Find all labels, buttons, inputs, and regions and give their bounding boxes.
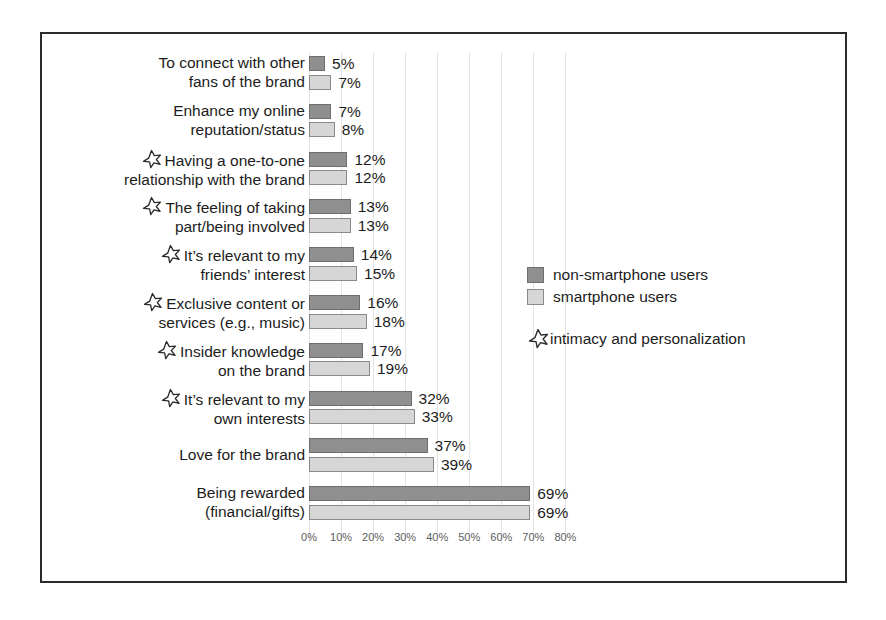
category-label: The feeling of takingpart/being involved: [45, 196, 305, 236]
bar-value-label: 15%: [364, 264, 395, 283]
x-axis: 0%10%20%30%40%50%60%70%80%: [42, 531, 845, 551]
bar-row: 13%: [309, 218, 351, 233]
star-icon: [141, 196, 162, 216]
legend-label: non-smartphone users: [553, 266, 708, 284]
bar-value-label: 17%: [370, 341, 401, 360]
bar-row: 8%: [309, 122, 335, 137]
chart-plot-area: To connect with otherfans of the brand5%…: [42, 34, 845, 581]
bar-row: 12%: [309, 152, 347, 167]
bar-value-label: 33%: [422, 407, 453, 426]
x-axis-tick-label: 60%: [490, 531, 512, 543]
legend-swatch: [527, 267, 544, 283]
star-icon: [156, 340, 177, 360]
star-icon: [141, 149, 162, 169]
bar-value-label: 12%: [354, 150, 385, 169]
bar-row: 15%: [309, 266, 357, 281]
bar-value-label: 19%: [377, 359, 408, 378]
category-label: To connect with otherfans of the brand: [45, 53, 305, 91]
bar-smartphone: [309, 314, 367, 329]
bar-value-label: 12%: [354, 168, 385, 187]
bar-non-smartphone: [309, 199, 351, 214]
bar-value-label: 5%: [332, 54, 354, 73]
bar-value-label: 69%: [537, 484, 568, 503]
bar-row: 18%: [309, 314, 367, 329]
legend-item[interactable]: non-smartphone users: [527, 266, 827, 284]
x-axis-tick-label: 20%: [362, 531, 384, 543]
bar-row: 69%: [309, 486, 530, 501]
chart-legend: non-smartphone userssmartphone users int…: [527, 266, 827, 349]
category-label: Enhance my onlinereputation/status: [45, 101, 305, 139]
legend-series-list: non-smartphone userssmartphone users: [527, 266, 827, 306]
category-label: Being rewarded(financial/gifts): [45, 483, 305, 521]
bar-row: 5%: [309, 56, 325, 71]
bar-smartphone: [309, 361, 370, 376]
category-label: Exclusive content orservices (e.g., musi…: [45, 292, 305, 332]
bar-row: 69%: [309, 505, 530, 520]
x-axis-tick-label: 0%: [301, 531, 317, 543]
bar-value-label: 18%: [374, 312, 405, 331]
bar-non-smartphone: [309, 438, 428, 453]
bar-value-label: 8%: [342, 120, 364, 139]
category-label: Having a one-to-onerelationship with the…: [45, 149, 305, 189]
bar-smartphone: [309, 218, 351, 233]
bar-row: 33%: [309, 409, 415, 424]
bar-value-label: 13%: [358, 216, 389, 235]
x-axis-tick-label: 40%: [426, 531, 448, 543]
bar-row: 14%: [309, 247, 354, 262]
bar-smartphone: [309, 122, 335, 137]
bar-row: 17%: [309, 343, 363, 358]
bar-non-smartphone: [309, 247, 354, 262]
bar-value-label: 32%: [419, 389, 450, 408]
bar-value-label: 14%: [361, 245, 392, 264]
legend-swatch: [527, 289, 544, 305]
category-label: Love for the brand: [45, 445, 305, 464]
bar-non-smartphone: [309, 152, 347, 167]
bar-row: 12%: [309, 170, 347, 185]
star-icon: [160, 388, 181, 408]
bar-row: 7%: [309, 104, 331, 119]
bar-row: 32%: [309, 391, 412, 406]
bar-row: 19%: [309, 361, 370, 376]
bar-row: 37%: [309, 438, 428, 453]
bar-value-label: 69%: [537, 503, 568, 522]
bar-value-label: 7%: [338, 73, 360, 92]
bar-non-smartphone: [309, 56, 325, 71]
bar-row: 13%: [309, 199, 351, 214]
bar-value-label: 39%: [441, 455, 472, 474]
bar-non-smartphone: [309, 391, 412, 406]
x-axis-tick-label: 50%: [458, 531, 480, 543]
category-label: It’s relevant to myown interests: [45, 388, 305, 428]
legend-label: smartphone users: [553, 288, 677, 306]
category-label: It’s relevant to myfriends’ interest: [45, 244, 305, 284]
bar-row: 7%: [309, 75, 331, 90]
bar-smartphone: [309, 75, 331, 90]
gridline: [501, 52, 502, 544]
bar-value-label: 16%: [367, 293, 398, 312]
star-icon: [527, 328, 549, 349]
figure-frame: To connect with otherfans of the brand5%…: [40, 32, 847, 583]
x-axis-tick-label: 80%: [554, 531, 576, 543]
category-label: Insider knowledgeon the brand: [45, 340, 305, 380]
bar-non-smartphone: [309, 295, 360, 310]
legend-note: intimacy and personalization: [527, 328, 827, 349]
legend-note-label: intimacy and personalization: [550, 330, 746, 348]
star-icon: [160, 244, 181, 264]
bar-smartphone: [309, 457, 434, 472]
bar-non-smartphone: [309, 343, 363, 358]
legend-item[interactable]: smartphone users: [527, 288, 827, 306]
x-axis-tick-label: 30%: [394, 531, 416, 543]
gridline: [437, 52, 438, 544]
bar-smartphone: [309, 409, 415, 424]
bar-row: 39%: [309, 457, 434, 472]
x-axis-tick-label: 70%: [522, 531, 544, 543]
bar-value-label: 13%: [358, 197, 389, 216]
bar-row: 16%: [309, 295, 360, 310]
bar-non-smartphone: [309, 486, 530, 501]
bar-smartphone: [309, 170, 347, 185]
bar-value-label: 7%: [338, 102, 360, 121]
bar-smartphone: [309, 505, 530, 520]
bar-non-smartphone: [309, 104, 331, 119]
star-icon: [142, 292, 163, 312]
bar-value-label: 37%: [435, 436, 466, 455]
x-axis-tick-label: 10%: [330, 531, 352, 543]
